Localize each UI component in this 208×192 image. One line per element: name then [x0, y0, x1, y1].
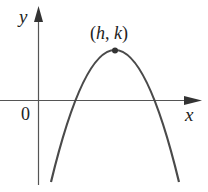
parabola-curve [51, 50, 179, 182]
y-axis-label: y [19, 7, 27, 26]
vertex-label-close: ) [122, 23, 128, 43]
vertex-label: (h, k) [90, 24, 128, 42]
vertex-label-k: k [114, 23, 122, 43]
vertex-label-h: h [96, 23, 105, 43]
x-axis-label: x [185, 105, 193, 124]
y-axis-arrow-icon [34, 6, 43, 22]
vertex-point [112, 48, 118, 54]
vertex-label-comma: , [105, 23, 114, 43]
origin-label: 0 [21, 105, 30, 123]
